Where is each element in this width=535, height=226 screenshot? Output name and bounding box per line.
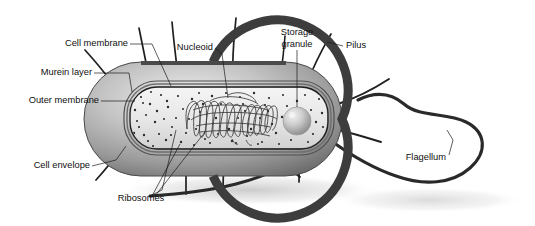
storage-granule	[283, 107, 311, 135]
label-pilus: Pilus	[346, 40, 367, 50]
label-storage-granule-line2: granule	[281, 39, 312, 49]
label-outer-membrane: Outer membrane	[29, 95, 99, 105]
storage-granule-highlight	[289, 112, 295, 118]
label-storage-granule-line1: Storage	[281, 27, 314, 37]
flagellum-drop-shadow	[335, 187, 525, 213]
leader-flagellum	[447, 130, 453, 155]
label-cell-membrane: Cell membrane	[65, 38, 128, 48]
label-murein-layer: Murein layer	[41, 67, 92, 77]
label-ribosomes: Ribosomes	[118, 193, 165, 203]
bacterial-cell-diagram: Cell membrane Murein layer Outer membran…	[0, 0, 535, 226]
label-flagellum: Flagellum	[406, 152, 447, 162]
bacteria-illustration: Cell membrane Murein layer Outer membran…	[0, 0, 535, 226]
flagellum-filament	[330, 94, 482, 182]
label-cell-envelope: Cell envelope	[34, 160, 90, 170]
label-nucleoid: Nucleoid	[177, 42, 213, 52]
